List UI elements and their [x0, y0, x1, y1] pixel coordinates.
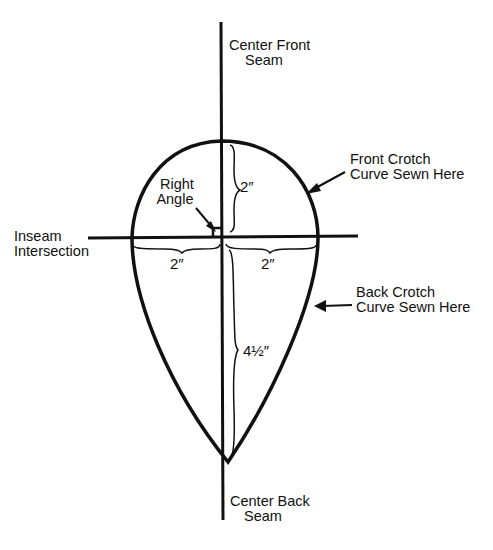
front-curve-arrowhead: [306, 183, 321, 194]
left-width-brace: [134, 244, 220, 253]
back-crotch-curve-label: Back Crotch Curve Sewn Here: [356, 285, 470, 315]
center-front-seam-label: Center Front Seam: [229, 38, 310, 68]
left-width-dimension: 2″: [170, 255, 184, 272]
back-depth-brace: [229, 250, 238, 460]
center-back-seam-label: Center Back Seam: [230, 494, 310, 524]
back-depth-dimension: 4½″: [243, 342, 269, 359]
back-curve-arrowhead: [314, 300, 326, 312]
right-width-brace: [226, 244, 316, 253]
center-seam-line: [221, 22, 223, 520]
crotch-curve-diagram: [0, 0, 493, 550]
front-crotch-curve-label: Front Crotch Curve Sewn Here: [350, 152, 464, 182]
right-angle-label: Right Angle: [156, 177, 194, 207]
back-curve-arrow: [322, 305, 352, 306]
front-depth-dimension: 2″: [240, 178, 254, 195]
front-depth-brace: [230, 145, 240, 232]
right-width-dimension: 2″: [261, 255, 275, 272]
inseam-intersection-label: Inseam Intersection: [14, 229, 89, 259]
